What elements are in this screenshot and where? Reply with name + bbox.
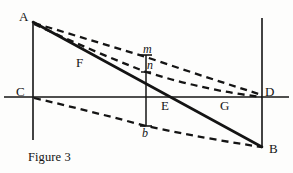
point-label-m: m [143, 43, 152, 55]
figure-container: A C F m n E G b D B Figure 3 [0, 0, 293, 173]
point-label-n: n [147, 59, 153, 71]
point-label-b-lower: b [142, 127, 148, 139]
geometry-diagram-svg [0, 0, 293, 173]
point-label-b: B [269, 142, 278, 155]
point-label-f: F [76, 56, 83, 69]
point-label-g: G [220, 99, 229, 112]
point-label-d: D [265, 85, 274, 98]
point-label-e: E [161, 99, 169, 112]
figure-caption: Figure 3 [28, 150, 71, 165]
point-label-c: C [16, 85, 25, 98]
point-label-a: A [19, 10, 28, 23]
